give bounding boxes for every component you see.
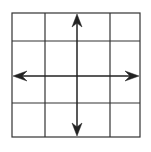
grid-border	[12, 13, 140, 137]
arrows	[13, 14, 139, 136]
grid-diagram	[0, 0, 151, 152]
grid-lines	[12, 13, 140, 137]
